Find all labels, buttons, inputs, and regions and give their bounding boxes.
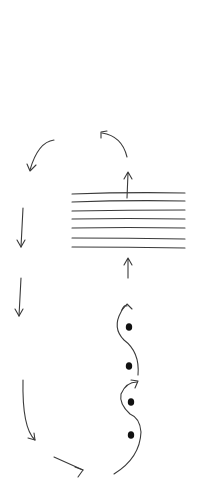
- arrow-down-left-1-icon: [17, 208, 25, 247]
- particles: [126, 323, 134, 439]
- particle-dot: [126, 323, 132, 331]
- arrow-down-left-2-icon: [15, 278, 23, 316]
- layer-line: [72, 228, 185, 229]
- arrow-up-into-layers-icon: [124, 258, 132, 278]
- layer-line: [72, 201, 185, 202]
- arrow-up-out-of-layers-icon: [124, 172, 132, 198]
- particle-dot: [128, 431, 134, 439]
- layer-stack: [72, 193, 185, 248]
- wavy-path-lower-icon: [114, 380, 141, 474]
- particle-dot: [126, 362, 132, 370]
- layer-line: [72, 238, 185, 239]
- layer-line: [72, 210, 185, 211]
- layer-line: [72, 219, 185, 220]
- layer-line: [72, 247, 185, 248]
- arrow-bottom-right-icon: [54, 457, 83, 477]
- arrow-curve-top-left-icon: [27, 140, 54, 171]
- layer-line: [72, 193, 185, 194]
- arrow-curve-bottom-left-icon: [23, 380, 35, 440]
- arrow-curve-top-right-icon: [101, 131, 127, 157]
- diagram-canvas: [0, 0, 199, 497]
- particle-dot: [128, 398, 134, 406]
